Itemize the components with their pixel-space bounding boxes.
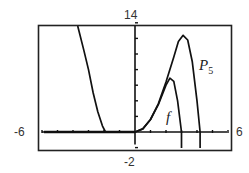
x-max-label: 6 xyxy=(236,126,243,138)
curves xyxy=(42,26,200,148)
curve-label-p5: P5 xyxy=(199,58,213,76)
y-max-label: 14 xyxy=(124,9,137,21)
graph-plot xyxy=(0,0,249,173)
curve-p5 xyxy=(78,26,200,132)
curve-label-f: f xyxy=(166,110,170,125)
curve-f xyxy=(42,78,182,132)
y-min-label: -2 xyxy=(124,156,135,168)
x-min-label: -6 xyxy=(14,126,25,138)
